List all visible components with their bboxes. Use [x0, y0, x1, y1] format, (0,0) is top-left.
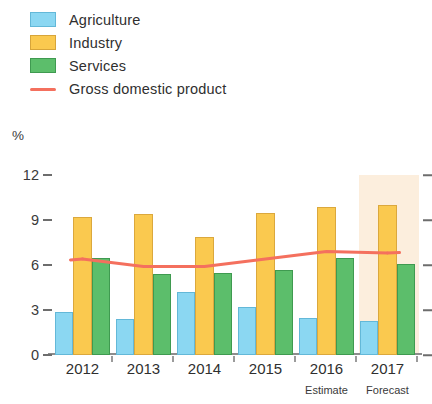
y-axis-right-tick-6: [423, 264, 432, 266]
gdp-line-path: [83, 252, 388, 267]
legend-line-gdp-icon: [30, 81, 56, 96]
legend-label-services: Services: [69, 58, 126, 74]
legend-item-agriculture: Agriculture: [30, 8, 227, 31]
y-axis-right-tick-12: [423, 174, 432, 176]
x-axis-label-2016: 2016: [310, 360, 343, 377]
x-axis-note-forecast: Forecast: [366, 384, 409, 396]
y-axis-right-tick-9: [423, 219, 432, 221]
legend-item-services: Services: [30, 54, 227, 77]
gdp-line-series: [52, 175, 418, 355]
x-axis-label-2014: 2014: [188, 360, 221, 377]
y-axis-tick-0: 0: [17, 347, 52, 363]
x-axis-label-2013: 2013: [127, 360, 160, 377]
legend-swatch-industry-icon: [30, 35, 56, 50]
x-axis-label-2012: 2012: [66, 360, 99, 377]
y-axis-tick-12: 12: [17, 167, 52, 183]
y-axis-right-tick-3: [423, 309, 432, 311]
legend-swatch-agriculture-icon: [30, 12, 56, 27]
x-axis-label-2017: 2017: [371, 360, 404, 377]
y-axis-unit-label: %: [12, 128, 24, 143]
x-axis-sublabels: EstimateForecast: [52, 384, 432, 400]
legend-label-agriculture: Agriculture: [69, 12, 141, 28]
legend-item-gdp: Gross domestic product: [30, 77, 227, 100]
y-axis-tick-9: 9: [17, 212, 52, 228]
chart-legend: Agriculture Industry Services Gross dome…: [30, 8, 227, 100]
legend-label-industry: Industry: [69, 35, 122, 51]
legend-label-gdp: Gross domestic product: [69, 81, 227, 97]
gdp-line-stub: [71, 253, 400, 261]
y-axis-tick-3: 3: [17, 302, 52, 318]
x-axis-label-2015: 2015: [249, 360, 282, 377]
x-axis-labels: 201220132014201520162017: [52, 360, 418, 382]
plot-area: 036912: [52, 175, 418, 355]
y-axis-right-tick-0: [423, 354, 432, 356]
legend-swatch-services-icon: [30, 58, 56, 73]
legend-item-industry: Industry: [30, 31, 227, 54]
x-axis-note-estimate: Estimate: [305, 384, 348, 396]
y-axis-tick-6: 6: [17, 257, 52, 273]
